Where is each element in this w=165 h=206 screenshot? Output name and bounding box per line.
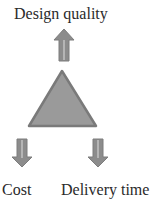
- quality-triangle-diagram: [0, 0, 165, 206]
- down-arrow-cost-icon: [12, 139, 32, 167]
- cost-label: Cost: [2, 181, 31, 199]
- down-arrow-delivery-icon: [88, 139, 108, 167]
- triangle-shape: [29, 71, 96, 126]
- delivery-time-label: Delivery time: [61, 181, 149, 199]
- up-arrow-icon: [54, 29, 74, 61]
